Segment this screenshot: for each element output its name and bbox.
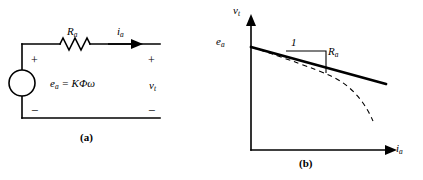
- circuit-diagram-panel: Ra ia + − ea = KΦω + vt − (a): [0, 0, 211, 180]
- circuit-schematic-svg: [0, 0, 211, 180]
- y-axis-label: vt: [233, 5, 240, 17]
- caption-b: (b): [299, 158, 312, 169]
- actual-characteristic-curve: [251, 47, 373, 121]
- y-axis-arrowhead: [246, 14, 256, 26]
- ideal-characteristic-line: [251, 47, 386, 84]
- caption-a: (a): [80, 132, 93, 143]
- source-minus-sign: −: [31, 104, 38, 117]
- characteristic-plot-panel: vt ia ea 1 Ra (b): [211, 0, 423, 180]
- x-axis-label: ia: [396, 143, 403, 155]
- resistor-zigzag: [60, 38, 90, 50]
- characteristic-plot-svg: [211, 0, 423, 180]
- slope-rise-label: Ra: [328, 46, 338, 58]
- terminal-voltage-label: vt: [149, 80, 156, 92]
- emf-equation: ea = KΦω: [50, 78, 95, 90]
- terminal-minus-sign: −: [148, 104, 155, 117]
- armature-current-label: ia: [117, 26, 124, 38]
- terminal-plus-sign: +: [148, 54, 155, 66]
- voltage-source-symbol: [9, 70, 35, 96]
- slope-run-label: 1: [291, 37, 297, 48]
- y-intercept-label: ea: [216, 36, 225, 48]
- current-arrow: [108, 39, 143, 49]
- source-plus-sign: +: [31, 54, 38, 66]
- figure-container: Ra ia + − ea = KΦω + vt − (a): [0, 0, 423, 180]
- resistor-label: Ra: [67, 26, 77, 38]
